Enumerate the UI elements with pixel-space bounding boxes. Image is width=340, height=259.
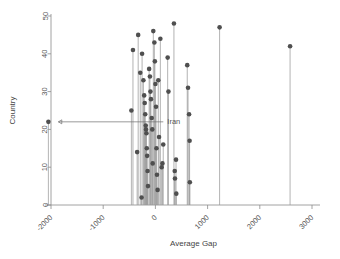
data-point — [152, 40, 157, 45]
data-point — [145, 154, 150, 159]
data-point — [156, 78, 161, 83]
data-point — [135, 150, 140, 155]
data-point — [136, 33, 141, 38]
data-point — [142, 93, 147, 98]
x-tick-label: -1000 — [87, 213, 107, 233]
x-axis-title: Average Gap — [170, 239, 218, 248]
data-point — [160, 161, 165, 166]
data-point — [149, 97, 154, 102]
data-point — [150, 161, 155, 166]
data-point — [145, 169, 150, 174]
data-point — [154, 146, 159, 151]
data-point — [148, 89, 153, 94]
data-point — [139, 195, 144, 200]
y-axis-title: Country — [8, 96, 17, 124]
data-point — [148, 74, 153, 79]
data-point — [144, 131, 149, 136]
data-point — [288, 44, 293, 49]
data-point — [155, 172, 160, 177]
data-point — [149, 116, 154, 121]
data-point — [154, 104, 159, 109]
data-point — [138, 70, 143, 75]
data-point — [165, 55, 170, 60]
data-point — [141, 78, 146, 83]
data-point — [172, 169, 177, 174]
data-point — [144, 146, 149, 151]
y-tick-label: 50 — [41, 12, 50, 20]
data-point — [166, 89, 171, 94]
data-point — [155, 188, 160, 193]
annotation-label-iran: Iran — [167, 117, 180, 126]
y-tick-label: 40 — [41, 50, 50, 58]
data-point — [158, 36, 163, 41]
data-point — [174, 191, 179, 196]
x-tick-label: 2000 — [245, 213, 263, 231]
data-point — [161, 142, 166, 147]
data-point — [217, 25, 222, 30]
data-point — [140, 52, 145, 57]
data-point — [174, 157, 179, 162]
x-tick-label: 1000 — [193, 213, 211, 231]
x-tick-label: -2000 — [34, 213, 54, 233]
chart-container: 01020304050Country-2000-1000010002000300… — [0, 0, 340, 259]
x-tick-label: 0 — [149, 213, 158, 222]
data-point — [153, 82, 158, 87]
lollipop-chart: 01020304050Country-2000-1000010002000300… — [0, 0, 340, 259]
data-point — [172, 21, 177, 26]
data-point — [157, 135, 162, 140]
x-tick-label: 3000 — [297, 213, 315, 231]
data-point — [187, 138, 192, 143]
data-point — [151, 29, 156, 34]
data-point — [150, 127, 155, 132]
data-point — [185, 63, 190, 68]
data-point — [146, 184, 151, 189]
data-point — [173, 176, 178, 181]
data-point — [186, 86, 191, 91]
data-point — [129, 108, 134, 113]
data-point — [143, 112, 148, 117]
y-tick-label: 30 — [41, 87, 50, 95]
data-point — [131, 48, 136, 53]
data-point — [147, 67, 152, 72]
data-point — [188, 180, 193, 185]
data-point — [159, 165, 164, 170]
data-point — [46, 120, 51, 125]
data-point — [142, 101, 147, 106]
data-point — [153, 59, 158, 64]
data-point — [187, 112, 192, 117]
